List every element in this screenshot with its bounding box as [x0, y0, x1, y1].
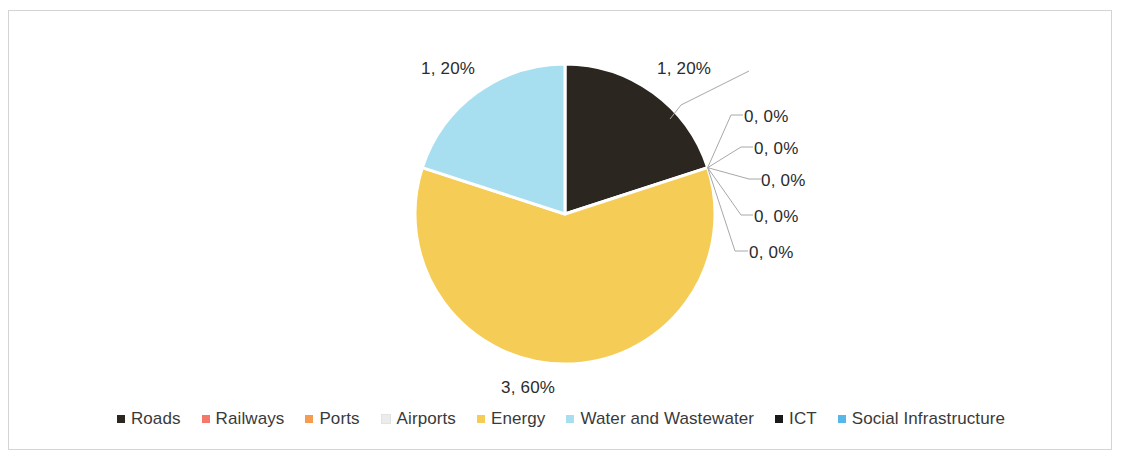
data-label-ports: 0, 0%: [754, 139, 798, 159]
legend-swatch-icon: [202, 415, 210, 423]
legend-label: Energy: [491, 409, 545, 429]
legend-label: Water and Wastewater: [580, 409, 754, 429]
chart-legend: RoadsRailwaysPortsAirportsEnergyWater an…: [9, 409, 1113, 429]
leader-line-zero-3: [708, 168, 761, 179]
data-label-social: 0, 0%: [749, 243, 793, 263]
legend-label: ICT: [789, 409, 817, 429]
legend-item[interactable]: Railways: [202, 409, 285, 429]
legend-label: Railways: [216, 409, 285, 429]
legend-label: Social Infrastructure: [852, 409, 1005, 429]
data-label-roads: 1, 20%: [657, 59, 711, 79]
legend-swatch-icon: [838, 415, 846, 423]
legend-swatch-icon: [775, 415, 783, 423]
legend-swatch-icon: [117, 415, 125, 423]
legend-item[interactable]: Ports: [305, 409, 359, 429]
pie-chart-plot-area: 1, 20% 1, 20% 0, 0% 0, 0% 0, 0% 0, 0% 0,…: [9, 11, 1113, 451]
legend-item[interactable]: ICT: [775, 409, 817, 429]
data-label-energy: 3, 60%: [501, 378, 555, 398]
legend-swatch-icon: [381, 414, 391, 424]
data-label-ict: 0, 0%: [754, 207, 798, 227]
data-label-airports: 0, 0%: [761, 171, 805, 191]
legend-swatch-icon: [477, 415, 485, 423]
leader-line-zero-2: [708, 147, 753, 168]
legend-swatch-icon: [566, 415, 574, 423]
legend-swatch-icon: [305, 415, 313, 423]
legend-item[interactable]: Roads: [117, 409, 181, 429]
legend-label: Roads: [131, 409, 181, 429]
data-label-railways: 0, 0%: [744, 107, 788, 127]
legend-item[interactable]: Water and Wastewater: [566, 409, 754, 429]
legend-item[interactable]: Energy: [477, 409, 545, 429]
legend-label: Airports: [397, 409, 456, 429]
pie-slices-group: [415, 64, 715, 364]
leader-line-zero-1: [708, 115, 743, 168]
pie-chart-graphic: [9, 11, 1113, 451]
chart-frame: 1, 20% 1, 20% 0, 0% 0, 0% 0, 0% 0, 0% 0,…: [8, 10, 1112, 450]
data-label-water: 1, 20%: [421, 59, 475, 79]
legend-item[interactable]: Airports: [381, 409, 456, 429]
legend-label: Ports: [319, 409, 359, 429]
legend-item[interactable]: Social Infrastructure: [838, 409, 1005, 429]
